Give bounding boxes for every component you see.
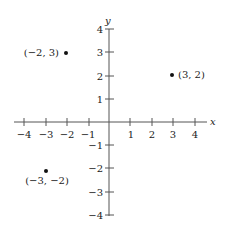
data-point bbox=[64, 51, 68, 55]
x-tick-label: 4 bbox=[192, 129, 198, 140]
point-neg2-3: (−2, 3) bbox=[24, 47, 68, 58]
point-3-2: (3, 2) bbox=[170, 69, 205, 80]
y-tick-label: 1 bbox=[97, 94, 103, 105]
y-tick-label: −3 bbox=[88, 187, 103, 198]
x-tick-label: −3 bbox=[39, 129, 54, 140]
x-tick-labels: −4 −3 −2 −1 1 2 3 4 bbox=[17, 129, 199, 140]
y-tick-label: 4 bbox=[97, 24, 103, 35]
data-point bbox=[170, 73, 174, 77]
data-point bbox=[44, 169, 48, 173]
y-axis-label: y bbox=[104, 15, 111, 26]
y-tick-label: −4 bbox=[88, 210, 103, 221]
point-label: (−3, −2) bbox=[25, 175, 69, 186]
x-tick-label: 3 bbox=[170, 129, 176, 140]
y-tick-label: −2 bbox=[88, 163, 103, 174]
point-neg3-neg2: (−3, −2) bbox=[25, 169, 69, 186]
x-tick-label: −2 bbox=[60, 129, 75, 140]
y-tick-label: 2 bbox=[97, 71, 103, 82]
x-tick-label: −1 bbox=[81, 129, 96, 140]
x-tick-label: −4 bbox=[17, 129, 32, 140]
point-label: (3, 2) bbox=[178, 69, 205, 80]
x-tick-label: 1 bbox=[128, 129, 134, 140]
y-tick-label: 3 bbox=[97, 47, 103, 58]
point-label: (−2, 3) bbox=[24, 47, 59, 58]
y-tick-label: −1 bbox=[88, 140, 103, 151]
x-tick-label: 2 bbox=[149, 129, 155, 140]
coordinate-plane: x y −4 −3 −2 −1 1 2 3 4 4 3 2 1 −1 −2 −3… bbox=[0, 0, 227, 235]
x-axis-label: x bbox=[210, 116, 216, 127]
